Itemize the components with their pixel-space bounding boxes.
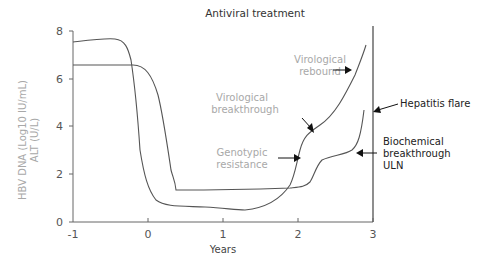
x-tick-label: 2 xyxy=(295,228,302,241)
x-ticks: -1 0 1 2 3 xyxy=(68,218,377,241)
svg-text:Virological: Virological xyxy=(216,92,268,103)
x-tick-label: 0 xyxy=(145,228,152,241)
svg-text:Biochemical: Biochemical xyxy=(383,136,444,147)
annotation-biochemical-breakthrough: Biochemical breakthrough ULN xyxy=(356,136,451,171)
x-axis-title: Years xyxy=(209,244,236,255)
arrowhead-icon xyxy=(356,149,363,157)
y-axis-title-line2: ALT (U/L) xyxy=(29,118,40,162)
y-tick-label: 8 xyxy=(56,25,63,38)
annotation-virological-rebound: Virological rebound xyxy=(294,54,352,77)
svg-text:Hepatitis flare: Hepatitis flare xyxy=(400,98,470,109)
arrow-line xyxy=(378,104,398,110)
chart: Antiviral treatment 8 6 4 2 0 -1 0 1 2 3… xyxy=(0,0,480,263)
annotation-hepatitis-flare: Hepatitis flare xyxy=(373,98,470,113)
svg-text:breakthrough: breakthrough xyxy=(211,104,279,115)
x-tick-label: 1 xyxy=(220,228,227,241)
svg-text:rebound: rebound xyxy=(299,66,341,77)
x-tick-label: 3 xyxy=(370,228,377,241)
x-tick-label: -1 xyxy=(68,228,79,241)
alt-curve xyxy=(73,65,364,190)
svg-text:breakthrough: breakthrough xyxy=(383,148,451,159)
chart-title: Antiviral treatment xyxy=(205,7,305,19)
annotation-genotypic-resistance: Genotypic resistance xyxy=(216,147,301,170)
y-ticks: 8 6 4 2 0 xyxy=(56,25,73,229)
y-tick-label: 6 xyxy=(56,73,63,86)
svg-text:Virological: Virological xyxy=(294,54,346,65)
y-axis-title-line1: HBV DNA (Log10 IU/mL) xyxy=(17,80,28,200)
arrowhead-icon xyxy=(345,66,352,74)
annotation-virological-breakthrough: Virological breakthrough xyxy=(211,92,314,133)
svg-text:resistance: resistance xyxy=(216,159,267,170)
svg-text:Genotypic: Genotypic xyxy=(217,147,268,158)
svg-text:ULN: ULN xyxy=(383,160,403,171)
y-tick-label: 4 xyxy=(56,120,63,133)
y-tick-label: 0 xyxy=(56,216,63,229)
arrowhead-icon xyxy=(373,106,381,113)
y-tick-label: 2 xyxy=(56,168,63,181)
y-axis-title: HBV DNA (Log10 IU/mL) ALT (U/L) xyxy=(17,80,40,200)
